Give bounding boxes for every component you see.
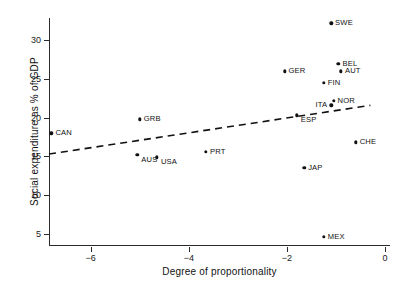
plot-area: 51015202530 −6−4−20 CANSWEBELAUTGERFINNO…	[49, 18, 390, 246]
data-point-label-ita: ITA	[315, 101, 327, 109]
data-point-label-nor: NOR	[338, 97, 355, 105]
trend-line	[49, 18, 390, 246]
y-axis-label: Social expenditure as % of GDP	[29, 42, 40, 222]
scatter-chart-figure: 51015202530 −6−4−20 CANSWEBELAUTGERFINNO…	[0, 0, 404, 297]
x-tick-mark	[287, 247, 288, 252]
data-point-label-jap: JAP	[308, 164, 322, 172]
x-tick-label: −6	[86, 254, 96, 263]
x-tick-label: 0	[383, 254, 388, 263]
data-point-label-esp: ESP	[301, 116, 317, 124]
x-tick-label: −2	[282, 254, 292, 263]
data-point-label-che: CHE	[360, 138, 376, 146]
data-point-label-grb: GRB	[144, 115, 161, 123]
y-tick-label: 5	[36, 229, 41, 238]
data-point-label-ger: GER	[289, 67, 306, 75]
data-point-label-aut: AUT	[345, 67, 361, 75]
data-point-label-swe: SWE	[335, 19, 353, 27]
data-point-label-mex: MEX	[328, 233, 345, 241]
x-axis-label: Degree of proportionality	[49, 266, 390, 277]
x-tick-mark	[189, 247, 190, 252]
data-point-label-can: CAN	[55, 129, 71, 137]
x-tick-mark	[385, 247, 386, 252]
x-tick-label: −4	[184, 254, 194, 263]
x-tick-mark	[91, 247, 92, 252]
data-point-label-usa: USA	[161, 158, 177, 166]
data-point-label-prt: PRT	[210, 148, 226, 156]
data-point-label-fin: FIN	[328, 79, 341, 87]
